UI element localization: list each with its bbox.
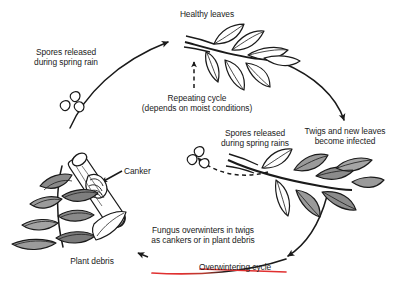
infected-leaf-branch [226, 149, 384, 217]
spore-cluster-left [60, 92, 84, 112]
arc-overwintering-to-debris [138, 253, 286, 274]
spore-cluster-middle [187, 147, 209, 168]
healthy-leaf-branch [184, 24, 300, 90]
disease-cycle-diagram: Healthy leaves Spores released during sp… [0, 0, 402, 293]
arc-spores-to-healthy [70, 42, 168, 128]
diagram-artwork [0, 0, 402, 293]
canker-pointer-arrow [102, 171, 122, 182]
arc-healthy-to-twigs [283, 63, 344, 120]
